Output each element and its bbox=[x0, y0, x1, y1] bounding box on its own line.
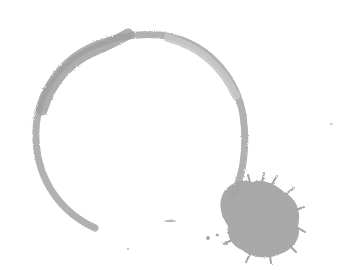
coffee-ring-graphic bbox=[0, 0, 338, 270]
coffee-splatter bbox=[127, 123, 332, 263]
coffee-stain-image: coffee ring stain with splatter bbox=[0, 0, 338, 270]
coffee-ring bbox=[36, 34, 245, 228]
